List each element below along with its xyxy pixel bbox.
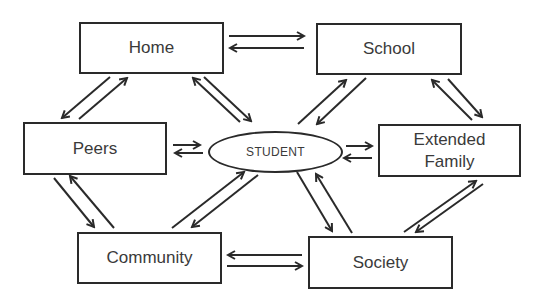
arrow-society-to-extended xyxy=(404,181,476,232)
arrow-student-to-community xyxy=(192,175,258,227)
node-school: School xyxy=(316,23,462,75)
arrow-community-to-peers xyxy=(70,176,114,228)
node-school-label: School xyxy=(363,38,415,60)
node-student: STUDENT xyxy=(208,131,343,173)
node-society-label: Society xyxy=(353,252,409,274)
node-extended-family-label: Extended Family xyxy=(410,129,489,173)
node-home-label: Home xyxy=(129,37,174,59)
arrow-school-to-extended xyxy=(448,79,482,117)
arrow-extended-to-society xyxy=(416,184,483,232)
node-community-label: Community xyxy=(107,247,193,269)
node-community: Community xyxy=(77,232,222,284)
arrow-society-to-student xyxy=(316,174,352,233)
node-home: Home xyxy=(79,22,224,74)
arrow-student-to-home xyxy=(193,78,240,122)
node-peers: Peers xyxy=(23,122,167,175)
arrow-student-to-school xyxy=(298,80,346,124)
arrow-home-to-student xyxy=(204,77,251,121)
node-student-label: STUDENT xyxy=(246,145,305,159)
arrow-community-to-student xyxy=(172,172,244,228)
arrow-student-to-society xyxy=(297,172,332,231)
node-society: Society xyxy=(308,236,453,289)
arrow-peers-to-community xyxy=(54,178,94,227)
node-extended-family: Extended Family xyxy=(378,124,521,177)
node-peers-label: Peers xyxy=(73,138,117,160)
